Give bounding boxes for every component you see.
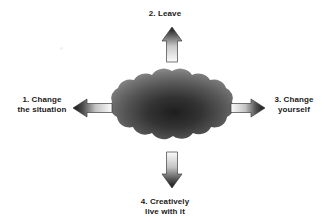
diagram-canvas: 2. Leave 1. Change the situation 3. Chan…	[0, 0, 330, 223]
arrow-down	[162, 152, 182, 188]
label-change-yourself: 3. Change yourself	[262, 95, 326, 115]
arrow-right	[231, 99, 265, 117]
problem-cloud	[111, 69, 234, 140]
label-creatively-live-with-it: 4. Creatively live with it	[124, 197, 206, 217]
arrow-left	[73, 99, 112, 117]
scan-artifact-speck	[60, 47, 63, 50]
label-leave: 2. Leave	[131, 9, 199, 19]
label-change-the-situation: 1. Change the situation	[8, 95, 76, 115]
arrow-up	[162, 27, 182, 62]
